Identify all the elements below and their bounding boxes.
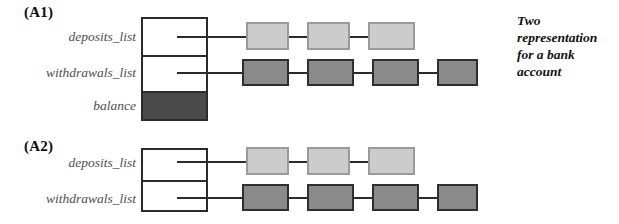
side-note-line-4: account [517, 63, 619, 80]
connector-a1-deposits-2 [350, 36, 368, 38]
connector-a2-deposits-2 [350, 161, 368, 163]
connector-a2-withdrawals-1 [289, 197, 307, 199]
chain-node-a1-withdrawals-4 [437, 59, 478, 86]
side-note: Two representation for a bank account [517, 12, 619, 80]
connector-a1-withdrawals-0 [177, 72, 242, 74]
connector-a2-withdrawals-0 [177, 197, 242, 199]
chain-node-a2-withdrawals-4 [437, 184, 478, 211]
connector-a2-withdrawals-2 [354, 197, 372, 199]
connector-a1-deposits-1 [289, 36, 307, 38]
chain-node-a2-withdrawals-1 [242, 184, 289, 211]
chain-node-a2-deposits-1 [246, 147, 289, 175]
field-label-deposits-list-a2: deposits_list [0, 155, 136, 171]
chain-node-a2-withdrawals-3 [372, 184, 419, 211]
diagram-canvas: (A1) deposits_list withdrawals_list bala… [0, 0, 619, 224]
side-note-line-1: Two [517, 12, 619, 29]
chain-node-a2-deposits-3 [368, 147, 415, 175]
chain-node-a1-deposits-3 [368, 22, 415, 50]
field-label-withdrawals-list-a1: withdrawals_list [0, 65, 136, 81]
chain-node-a1-withdrawals-3 [372, 59, 419, 86]
field-label-withdrawals-list-a2: withdrawals_list [0, 191, 136, 207]
connector-a1-deposits-0 [177, 36, 246, 38]
side-note-line-3: for a bank [517, 46, 619, 63]
chain-node-a2-withdrawals-2 [307, 184, 354, 211]
connector-a2-deposits-1 [289, 161, 307, 163]
connector-a1-withdrawals-2 [354, 72, 372, 74]
connector-a1-withdrawals-3 [419, 72, 437, 74]
struct-divider-a1-1 [141, 55, 208, 57]
side-note-line-2: representation [517, 29, 619, 46]
connector-a2-deposits-0 [177, 161, 246, 163]
chain-node-a2-deposits-2 [307, 147, 350, 175]
chain-node-a1-withdrawals-1 [242, 59, 289, 86]
chain-node-a1-withdrawals-2 [307, 59, 354, 86]
connector-a1-withdrawals-1 [289, 72, 307, 74]
chain-node-a1-deposits-2 [307, 22, 350, 50]
chain-node-a1-deposits-1 [246, 22, 289, 50]
panel-caption-a1: (A1) [24, 4, 53, 21]
struct-cell-balance-a1 [143, 93, 206, 119]
field-label-deposits-list-a1: deposits_list [0, 29, 136, 45]
struct-divider-a2-1 [141, 180, 208, 182]
connector-a2-withdrawals-3 [419, 197, 437, 199]
panel-caption-a2: (A2) [24, 138, 53, 155]
field-label-balance-a1: balance [0, 98, 136, 114]
